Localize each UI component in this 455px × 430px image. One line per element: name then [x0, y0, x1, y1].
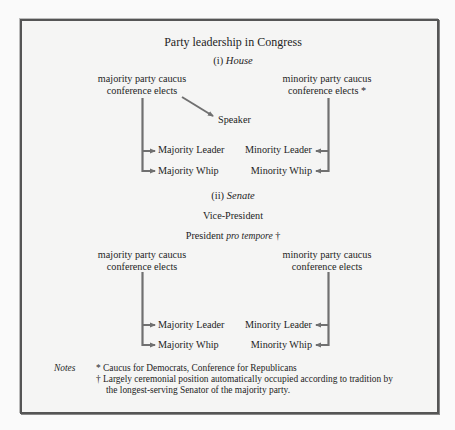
pro-tempore-label: pro tempore [226, 230, 272, 241]
house-minority-leader: Minority Leader [245, 144, 312, 156]
diagram-title: Party leadership in Congress [164, 36, 302, 48]
senate-president-pro-tempore: President pro tempore † [186, 230, 281, 242]
house-minority-whip: Minority Whip [251, 165, 312, 177]
senate-minority-source: minority party caucus conference elects [283, 249, 372, 273]
senate-majority-source: majority party caucus conference elects [98, 249, 186, 273]
senate-majority-whip: Majority Whip [158, 339, 219, 351]
source-line: conference elects * [283, 85, 372, 97]
note-dagger-continued: the longest-serving Senator of the major… [106, 385, 290, 396]
dagger-footnote-mark: † [275, 230, 280, 241]
senate-majority-connector [143, 272, 156, 346]
senate-heading: (ii) Senate [211, 190, 254, 202]
house-majority-source: majority party caucus conference elects [98, 73, 186, 97]
senate-heading-name: Senate [227, 190, 255, 201]
house-heading-number: (i) [213, 55, 223, 66]
note-asterisk: * Caucus for Democrats, Conference for R… [96, 363, 297, 374]
house-majority-leader: Majority Leader [158, 144, 224, 156]
president-label: President [186, 230, 224, 241]
house-minority-source: minority party caucus conference elects … [283, 73, 372, 97]
house-speaker: Speaker [218, 114, 251, 126]
house-minority-connector [316, 98, 329, 172]
source-line: conference elects [98, 85, 186, 97]
house-majority-connector [143, 98, 156, 172]
house-majority-whip: Majority Whip [158, 165, 219, 177]
source-line: conference elects [283, 261, 372, 273]
senate-minority-leader: Minority Leader [245, 319, 312, 331]
source-line: majority party caucus [98, 73, 186, 85]
source-line: minority party caucus [283, 73, 372, 85]
notes-label: Notes [54, 363, 75, 374]
house-speaker-arrow [182, 97, 213, 116]
senate-minority-connector [316, 272, 329, 346]
source-line: conference elects [98, 261, 186, 273]
house-heading: (i) House [213, 55, 252, 67]
senate-vice-president: Vice-President [203, 210, 263, 222]
house-heading-name: House [226, 55, 253, 66]
senate-majority-leader: Majority Leader [158, 319, 224, 331]
senate-minority-whip: Minority Whip [251, 339, 312, 351]
note-dagger: † Largely ceremonial position automatica… [96, 374, 393, 385]
source-line: minority party caucus [283, 249, 372, 261]
senate-heading-number: (ii) [211, 190, 224, 201]
source-line: majority party caucus [98, 249, 186, 261]
